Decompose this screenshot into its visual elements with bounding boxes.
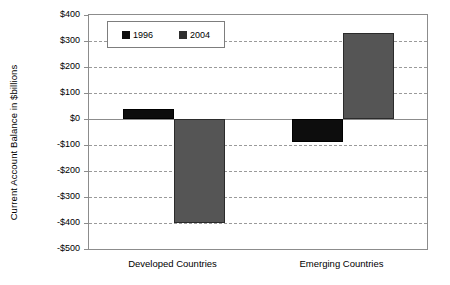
legend-entry-1996: 1996	[122, 30, 153, 40]
y-axis-tick	[84, 223, 89, 224]
plot-inner	[89, 15, 427, 249]
y-axis-tick-label: -$400	[20, 217, 80, 227]
y-axis-tick-label: $200	[20, 61, 80, 71]
bar-2004-developed-countries	[174, 119, 225, 223]
x-axis-category-label: Developed Countries	[128, 258, 217, 269]
chart-figure: Current Account Balance in $billions 199…	[0, 0, 450, 285]
gridline	[89, 171, 427, 172]
gridline	[89, 223, 427, 224]
legend-swatch-2004-icon	[179, 31, 187, 39]
y-axis-tick	[84, 67, 89, 68]
y-axis-tick-label: -$300	[20, 191, 80, 201]
y-axis-tick	[84, 15, 89, 16]
y-axis-tick	[84, 41, 89, 42]
y-axis-tick	[84, 145, 89, 146]
legend-label-1996: 1996	[133, 30, 153, 40]
y-axis-tick	[84, 171, 89, 172]
y-axis-tick	[84, 119, 89, 120]
plot-area: 1996 2004	[88, 14, 428, 250]
y-axis-tick	[84, 197, 89, 198]
gridline	[89, 197, 427, 198]
y-axis-tick-label: $300	[20, 35, 80, 45]
bar-1996-developed-countries	[123, 109, 174, 119]
y-axis-tick	[84, 249, 89, 250]
legend-swatch-1996-icon	[122, 31, 130, 39]
y-axis-tick	[84, 93, 89, 94]
bar-1996-emerging-countries	[292, 119, 343, 142]
y-axis-tick-label: $0	[20, 113, 80, 123]
legend-entry-2004: 2004	[179, 30, 210, 40]
y-axis-tick-label: -$100	[20, 139, 80, 149]
legend-label-2004: 2004	[190, 30, 210, 40]
y-axis-tick-label: $400	[20, 9, 80, 19]
y-axis-tick-label: -$200	[20, 165, 80, 175]
bar-2004-emerging-countries	[343, 33, 394, 119]
zero-line	[89, 119, 427, 120]
gridline	[89, 145, 427, 146]
y-axis-tick-label: -$500	[20, 243, 80, 253]
y-axis-tick-label: $100	[20, 87, 80, 97]
chart-legend: 1996 2004	[107, 21, 225, 48]
x-axis-category-label: Emerging Countries	[300, 258, 384, 269]
